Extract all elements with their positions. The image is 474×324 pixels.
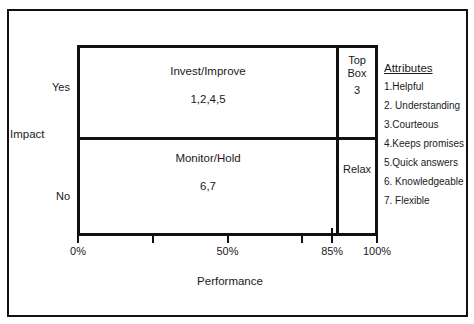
x-axis-tick-label-100: 100% <box>357 245 397 257</box>
quadrant-top-box: Top Box 3 <box>339 48 375 137</box>
quadrant-top-box-items: 3 <box>339 83 375 98</box>
x-axis-tick-85 <box>331 228 333 243</box>
x-axis-tick-25 <box>152 236 154 243</box>
quadrant-invest-items: 1,2,4,5 <box>80 92 336 107</box>
attribute-item: 1.Helpful <box>384 81 470 92</box>
x-axis-tick-75 <box>301 236 303 243</box>
x-axis-tick-label-50: 50% <box>208 245 248 257</box>
attributes-heading: Attributes <box>384 62 470 74</box>
diagram-page: Invest/Improve 1,2,4,5 Monitor/Hold 6,7 … <box>0 0 474 324</box>
quadrant-monitor-items: 6,7 <box>80 179 336 194</box>
attribute-item: 6. Knowledgeable <box>384 176 470 187</box>
quadrant-invest-title: Invest/Improve <box>80 64 336 79</box>
x-axis-tick-100 <box>376 228 378 243</box>
y-axis-label-no: No <box>20 190 70 202</box>
y-axis-label-yes: Yes <box>20 81 70 93</box>
quadrant-monitor-title: Monitor/Hold <box>80 151 336 166</box>
quadrant-relax: Relax <box>339 140 375 233</box>
attributes-legend: Attributes 1.Helpful2. Understanding3.Co… <box>384 62 470 214</box>
x-axis-tick-50 <box>227 236 229 243</box>
x-axis-tick-0 <box>77 236 79 243</box>
quadrant-top-box-title-line2: Box <box>339 67 375 80</box>
x-axis-tick-label-0: 0% <box>58 245 98 257</box>
attributes-list: 1.Helpful2. Understanding3.Courteous4.Ke… <box>384 81 470 206</box>
quadrant-top-box-title-line1: Top <box>339 54 375 67</box>
quadrant-invest-improve: Invest/Improve 1,2,4,5 <box>80 48 336 137</box>
attribute-item: 7. Flexible <box>384 195 470 206</box>
quadrant-monitor-hold: Monitor/Hold 6,7 <box>80 140 336 233</box>
attribute-item: 5.Quick answers <box>384 157 470 168</box>
attribute-item: 3.Courteous <box>384 119 470 130</box>
quadrant-relax-title: Relax <box>339 162 375 177</box>
x-axis-tick-label-85: 85% <box>312 245 352 257</box>
y-axis-title: Impact <box>10 128 70 140</box>
attribute-item: 4.Keeps promises <box>384 138 470 149</box>
attribute-item: 2. Understanding <box>384 100 470 111</box>
x-axis-title: Performance <box>160 275 300 287</box>
